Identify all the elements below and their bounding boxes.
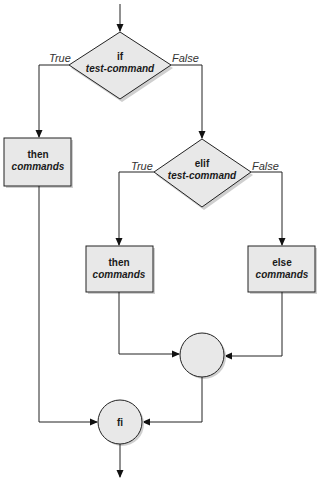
fi-node: fi (98, 400, 144, 446)
then-keyword-1: then (27, 149, 48, 160)
then-commands-1: commands (12, 161, 65, 172)
if-elif-else-flowchart: if test-command True False then commands… (0, 0, 321, 484)
if-decision-node: if test-command (69, 32, 173, 102)
if-true-label: True (49, 52, 71, 64)
elif-keyword: elif (195, 158, 210, 169)
elif-false-label: False (252, 160, 279, 172)
fi-keyword: fi (117, 417, 123, 428)
merge-to-fi-edge (143, 377, 202, 422)
then-commands-2: commands (93, 269, 146, 280)
if-true-edge (39, 65, 69, 137)
merge-node (180, 333, 226, 379)
if-keyword: if (117, 51, 124, 62)
then2-to-merge-edge (119, 292, 179, 354)
else-to-merge-edge (225, 292, 282, 356)
then-commands-box-1: then commands (4, 138, 73, 188)
elif-false-edge (251, 172, 282, 245)
elif-true-label: True (131, 160, 153, 172)
if-false-edge (171, 65, 202, 138)
elif-decision-node: elif test-command (154, 139, 253, 210)
if-test-command: test-command (86, 63, 155, 74)
then-commands-box-2: then commands (86, 246, 155, 294)
if-false-label: False (172, 52, 199, 64)
then1-to-fi-edge (39, 186, 97, 422)
elif-true-edge (119, 172, 154, 245)
elif-test-command: test-command (168, 170, 237, 181)
else-commands: commands (256, 269, 309, 280)
then-keyword-2: then (108, 257, 129, 268)
else-keyword: else (272, 257, 292, 268)
else-commands-box: else commands (248, 246, 317, 294)
